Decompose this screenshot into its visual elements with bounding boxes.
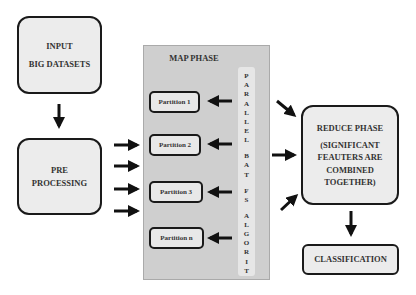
arrow-map-to-reduce-top	[277, 101, 294, 115]
arrows-layer	[0, 0, 416, 295]
arrow-map-to-reduce-bottom	[281, 196, 296, 210]
